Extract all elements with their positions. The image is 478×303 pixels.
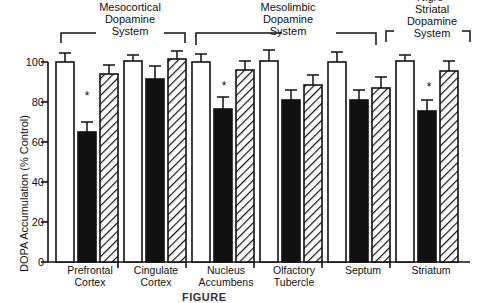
bar-nucleus-accumbens-treatment1 — [214, 109, 232, 262]
figure-panel: DOPA Accumulation (% Control) 100 80 60 … — [0, 0, 478, 303]
bar-cingulate-cortex-control — [124, 61, 142, 262]
bar-cingulate-cortex-treatment1 — [146, 79, 164, 262]
bar-group-prefrontal-cortex — [56, 53, 118, 262]
bar-group-cingulate-cortex — [124, 51, 186, 262]
bar-striatum-control — [396, 61, 414, 262]
system-bracket-nigrostriatal — [386, 31, 470, 42]
bar-prefrontal-cortex-control — [56, 62, 74, 262]
bar-prefrontal-cortex-treatment2 — [100, 74, 118, 262]
bar-striatum-treatment2 — [440, 71, 458, 262]
bar-septum-treatment1 — [350, 100, 368, 262]
bar-olfactory-tubercle-treatment2 — [304, 85, 322, 262]
bar-group-striatum — [396, 55, 458, 262]
system-bracket-mesocortical — [61, 33, 185, 43]
bar-group-olfactory-tubercle — [260, 50, 322, 262]
bar-septum-control — [328, 62, 346, 262]
system-bracket-mesolimbic — [196, 33, 376, 45]
bar-nucleus-accumbens-treatment2 — [236, 70, 254, 262]
bar-group-septum — [328, 52, 390, 262]
bar-group-nucleus-accumbens — [192, 54, 254, 262]
y-axis-ticks — [41, 62, 48, 262]
bar-cingulate-cortex-treatment2 — [168, 59, 186, 262]
bar-striatum-treatment1 — [418, 111, 436, 262]
bar-prefrontal-cortex-treatment1 — [78, 132, 96, 262]
bar-olfactory-tubercle-control — [260, 61, 278, 262]
bar-nucleus-accumbens-control — [192, 62, 210, 262]
bar-septum-treatment2 — [372, 88, 390, 262]
x-axis-group-separators — [118, 262, 390, 268]
chart-canvas — [0, 0, 478, 303]
bar-olfactory-tubercle-treatment1 — [282, 100, 300, 262]
